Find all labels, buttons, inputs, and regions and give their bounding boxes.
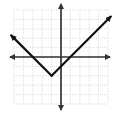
coordinate-plane [0,0,120,114]
